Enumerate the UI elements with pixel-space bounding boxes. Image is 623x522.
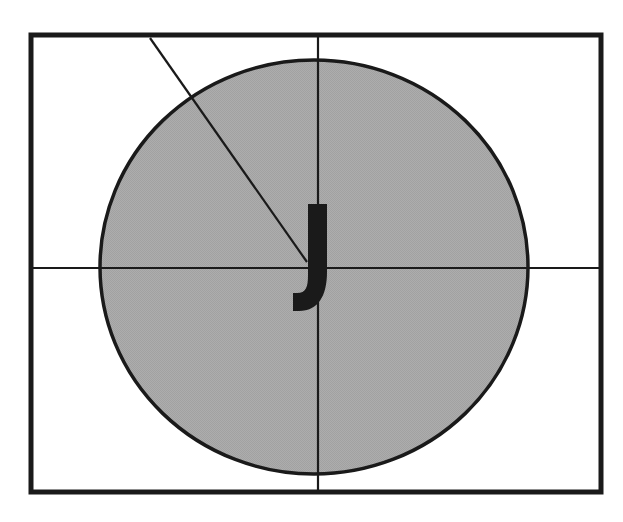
figure-root: Geometric diagram: shaded circle with cr… (0, 0, 623, 522)
figure-canvas (0, 0, 623, 522)
